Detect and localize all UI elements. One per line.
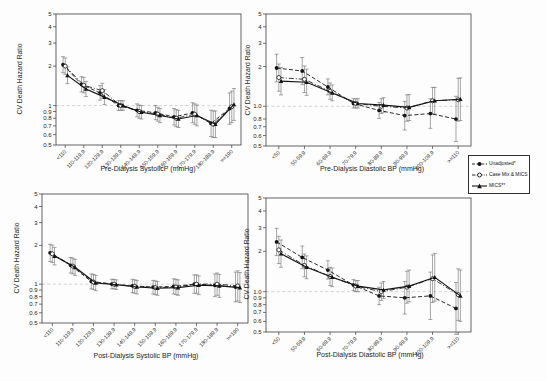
- y-axis-title-pre-diastolic: CV Death Hazard Ratio: [244, 44, 251, 115]
- svg-text:5: 5: [258, 195, 262, 201]
- svg-text:1.0: 1.0: [253, 289, 262, 295]
- svg-text:140-149.9: 140-149.9: [115, 326, 136, 347]
- legend-item-unadjusted: Unadjusted*: [472, 158, 527, 169]
- svg-text:5: 5: [48, 11, 52, 17]
- svg-text:>=190: >=190: [225, 326, 240, 341]
- x-axis-title-pre-diastolic: Pre-Dialysis Diastolic BP (mmHg): [320, 165, 424, 172]
- y-axis-title-pre-systolic: CV Death Hazard Ratio: [16, 43, 23, 114]
- svg-text:0.9: 0.9: [253, 295, 262, 301]
- svg-text:110-119.9: 110-119.9: [54, 326, 75, 347]
- plots-canvas: 543210.90.80.70.60.5<110110-119.9120-129…: [0, 0, 547, 381]
- svg-text:3: 3: [48, 40, 52, 46]
- svg-text:0.6: 0.6: [253, 133, 262, 139]
- svg-text:<110: <110: [55, 148, 68, 161]
- legend-label-mics: MICS**: [489, 183, 505, 188]
- svg-text:2: 2: [34, 242, 38, 248]
- svg-text:5: 5: [34, 191, 38, 197]
- svg-text:5: 5: [258, 11, 262, 17]
- svg-text:0.7: 0.7: [253, 309, 262, 315]
- legend-item-mics: MICS**: [472, 180, 527, 191]
- svg-text:0.5: 0.5: [253, 329, 262, 335]
- four-panel-hazard-ratio-figure: 543210.90.80.70.60.5<110110-119.9120-129…: [0, 0, 547, 381]
- svg-text:50-59.9: 50-59.9: [289, 149, 306, 166]
- svg-text:120-129.9: 120-129.9: [74, 326, 95, 347]
- svg-text:4: 4: [48, 24, 52, 30]
- svg-text:150-159.9: 150-159.9: [136, 326, 157, 347]
- svg-text:2: 2: [258, 248, 262, 254]
- svg-text:180-189.9: 180-189.9: [198, 326, 219, 347]
- svg-text:2: 2: [258, 64, 262, 70]
- svg-text:0.6: 0.6: [253, 318, 262, 324]
- svg-text:180-189.9: 180-189.9: [194, 148, 215, 169]
- solid-line-filled-triangle-icon: [472, 182, 487, 190]
- x-axis-title-pre-systolic: Pre-Dialysis SystolicP (mmHg): [100, 165, 195, 172]
- svg-text:0.8: 0.8: [253, 302, 262, 308]
- svg-text:0.7: 0.7: [29, 301, 38, 307]
- svg-text:3: 3: [34, 220, 38, 226]
- x-axis-title-post-systolic: Post-Dialysis Systolic BP (mmHg): [94, 352, 199, 359]
- svg-text:<50: <50: [270, 149, 281, 160]
- legend-item-case-mix: Case Mix & MICS: [472, 169, 527, 180]
- x-axis-title-post-diastolic: Post-Dialysis Diastolic BP (mmHg): [316, 351, 423, 358]
- svg-text:0.8: 0.8: [29, 294, 38, 300]
- svg-text:0.7: 0.7: [253, 124, 262, 130]
- svg-text:160-169.9: 160-169.9: [157, 326, 178, 347]
- svg-text:4: 4: [258, 24, 262, 30]
- legend-label-case-mix: Case Mix & MICS: [489, 172, 528, 177]
- y-axis-title-post-diastolic: CV Death Hazard Ratio: [243, 228, 250, 299]
- svg-text:<110: <110: [42, 326, 55, 339]
- svg-text:0.5: 0.5: [29, 320, 38, 326]
- legend: Unadjusted* Case Mix & MICS MICS**: [468, 155, 530, 194]
- svg-text:0.9: 0.9: [29, 287, 38, 293]
- svg-text:130-139.9: 130-139.9: [95, 326, 116, 347]
- svg-text:0.8: 0.8: [43, 115, 52, 121]
- svg-text:0.7: 0.7: [43, 123, 52, 129]
- svg-text:>=110: >=110: [446, 335, 461, 350]
- svg-text:0.6: 0.6: [43, 132, 52, 138]
- svg-text:170-179.9: 170-179.9: [177, 326, 198, 347]
- svg-text:3: 3: [258, 225, 262, 231]
- svg-text:0.6: 0.6: [29, 310, 38, 316]
- svg-text:0.5: 0.5: [253, 143, 262, 149]
- dashdot-line-open-circle-icon: [472, 171, 487, 179]
- svg-text:0.9: 0.9: [43, 109, 52, 115]
- svg-text:>=110: >=110: [446, 149, 461, 164]
- legend-label-unadjusted: Unadjusted*: [489, 161, 516, 166]
- svg-text:50-59.9: 50-59.9: [289, 335, 306, 352]
- svg-text:>=190: >=190: [219, 148, 234, 163]
- svg-text:2: 2: [48, 63, 52, 69]
- svg-text:1.0: 1.0: [253, 103, 262, 109]
- svg-text:<50: <50: [270, 335, 281, 346]
- svg-text:3: 3: [258, 40, 262, 46]
- y-axis-title-post-systolic: CV Death Hazard Ratio: [13, 222, 20, 293]
- svg-text:0.8: 0.8: [253, 116, 262, 122]
- svg-text:4: 4: [34, 204, 38, 210]
- svg-text:0.5: 0.5: [43, 142, 52, 148]
- dashed-line-filled-circle-icon: [472, 160, 487, 168]
- svg-text:4: 4: [258, 208, 262, 214]
